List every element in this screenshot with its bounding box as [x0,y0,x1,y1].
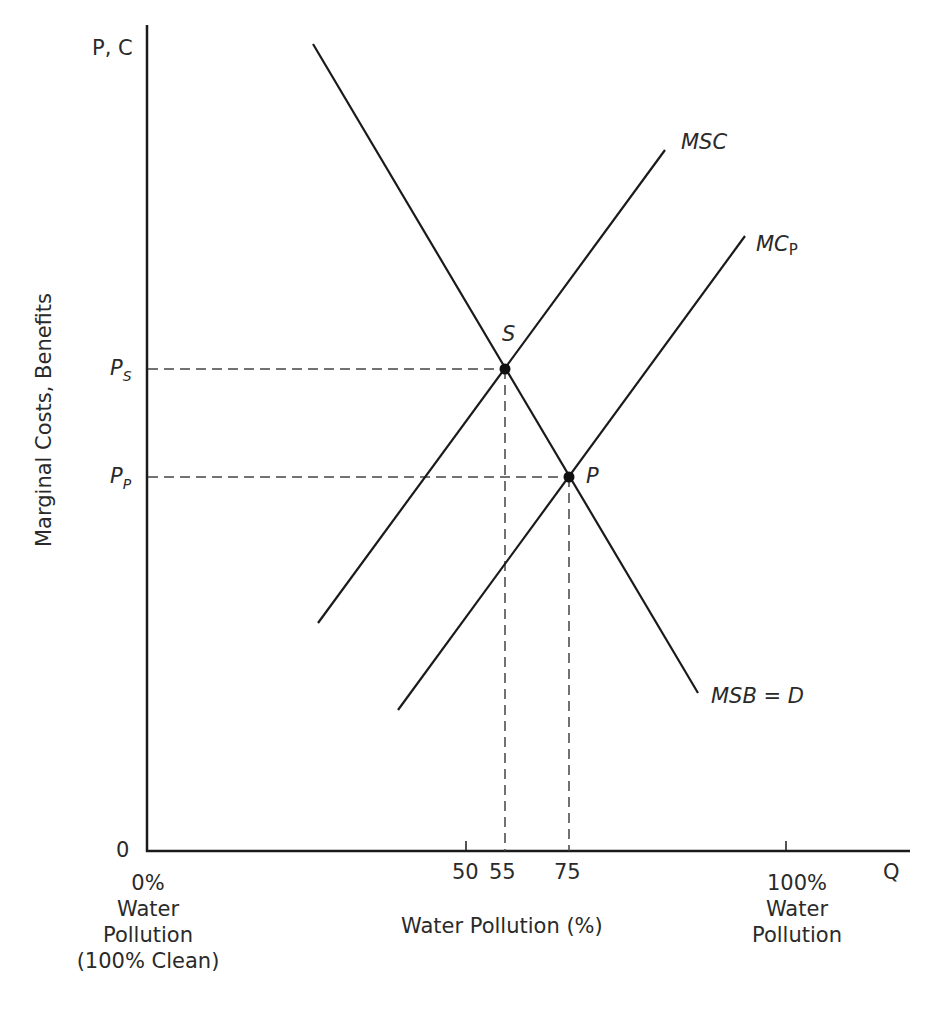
right-end-annotation: 100% Water Pollution [752,870,842,948]
mcp-main: MC [756,232,789,256]
left-end-line-4: (100% Clean) [77,948,220,974]
point-s-marker [500,364,511,375]
left-end-annotation: 0% Water Pollution (100% Clean) [77,870,220,974]
right-end-line-1: 100% [752,870,842,896]
msb-label: MSB = D [711,684,804,708]
q-label: Q [883,860,900,884]
tick-label-55: 55 [489,860,516,884]
ps-label: PS [110,356,132,384]
origin-label: 0 [116,838,129,862]
left-end-line-1: 0% [77,870,220,896]
msc-label: MSC [681,130,727,154]
pp-label: PP [110,464,131,492]
right-end-line-2: Water [752,896,842,922]
ps-main: P [110,356,123,380]
msc-curve [318,150,665,623]
tick-label-50: 50 [452,860,479,884]
tick-label-75: 75 [554,860,581,884]
ps-sub: S [123,368,132,384]
left-end-line-3: Pollution [77,922,220,948]
y-axis-top-label: P, C [92,36,133,60]
pp-main: P [110,464,123,488]
pp-sub: P [123,476,131,492]
y-axis-title: Marginal Costs, Benefits [32,293,56,547]
point-p-label: P [586,464,599,488]
mcp-sub: P [789,241,798,259]
point-p-marker [564,472,575,483]
x-axis-title: Water Pollution (%) [401,914,603,938]
point-s-label: S [502,322,515,346]
left-end-line-2: Water [77,896,220,922]
right-end-line-3: Pollution [752,922,842,948]
mcp-label: MCP [756,232,798,259]
